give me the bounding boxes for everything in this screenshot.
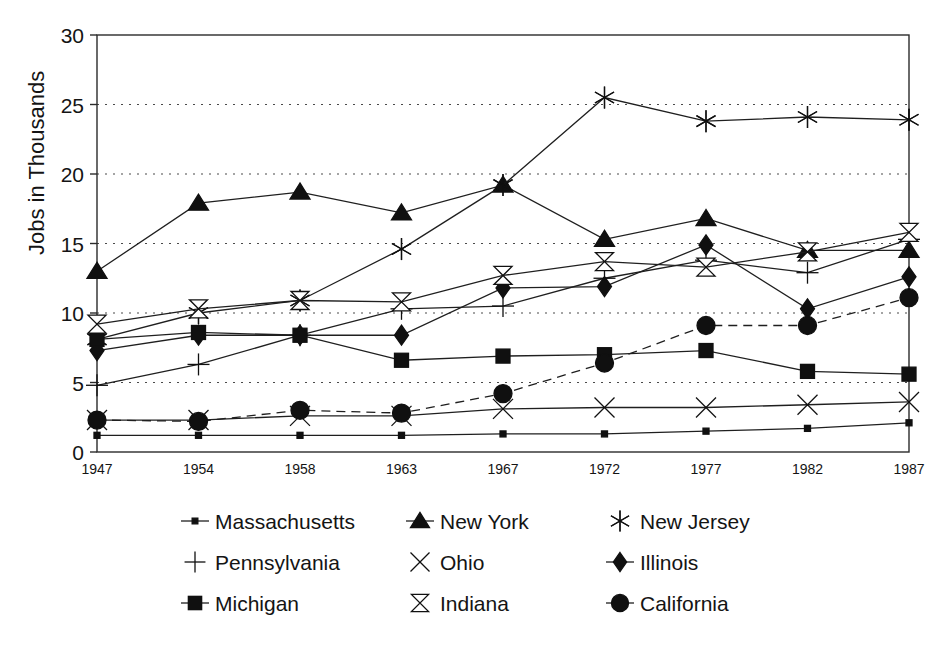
y-tick-label: 20 xyxy=(61,163,84,186)
marker-small-filled-square xyxy=(196,432,202,438)
marker-small-filled-square xyxy=(906,420,912,426)
y-tick-label: 15 xyxy=(61,233,84,256)
line-chart-figure: Jobs in Thousands 051015202530 194719541… xyxy=(0,0,928,654)
marker-filled-circle xyxy=(611,594,628,611)
legend-item-illinois[interactable]: Illinois xyxy=(606,551,698,574)
chart-legend: MassachusettsNew YorkNew JerseyPennsylva… xyxy=(181,510,750,615)
marker-filled-square xyxy=(395,353,409,367)
y-tick-label: 25 xyxy=(61,94,84,117)
y-tick-label: 5 xyxy=(72,372,84,395)
marker-filled-circle xyxy=(190,412,208,430)
legend-item-label: New York xyxy=(440,510,529,533)
marker-small-filled-square xyxy=(94,432,100,438)
x-tick-label-1958: 1958 xyxy=(284,461,315,477)
marker-filled-circle xyxy=(799,317,817,335)
x-tick-label-1977: 1977 xyxy=(690,461,721,477)
x-tick-label-1972: 1972 xyxy=(589,461,620,477)
legend-item-label: California xyxy=(640,592,729,615)
legend-item-label: Indiana xyxy=(440,592,509,615)
marker-filled-square xyxy=(90,332,104,346)
marker-filled-square xyxy=(188,596,201,609)
marker-small-filled-square xyxy=(399,432,405,438)
marker-filled-circle xyxy=(393,404,411,422)
y-axis-title: Jobs in Thousands xyxy=(24,71,49,255)
marker-small-filled-square xyxy=(500,431,506,437)
marker-small-filled-square xyxy=(703,428,709,434)
marker-small-filled-square xyxy=(192,518,198,524)
marker-filled-circle xyxy=(494,385,512,403)
x-tick-label-1947: 1947 xyxy=(81,461,112,477)
legend-item-label: Pennsylvania xyxy=(215,551,340,574)
x-tick-label-1987: 1987 xyxy=(893,461,924,477)
legend-item-label: New Jersey xyxy=(640,510,750,533)
x-tick-label-1963: 1963 xyxy=(386,461,417,477)
marker-filled-square xyxy=(699,344,713,358)
legend-item-label: Michigan xyxy=(215,592,299,615)
marker-filled-square xyxy=(192,325,206,339)
y-tick-label: 10 xyxy=(61,302,84,325)
marker-filled-circle xyxy=(900,289,918,307)
marker-filled-circle xyxy=(88,411,106,429)
legend-item-label: Massachusetts xyxy=(215,510,355,533)
x-tick-label-1982: 1982 xyxy=(792,461,823,477)
marker-filled-circle xyxy=(596,354,614,372)
marker-filled-square xyxy=(801,364,815,378)
marker-filled-circle xyxy=(697,317,715,335)
x-tick-label-1967: 1967 xyxy=(487,461,518,477)
marker-filled-square xyxy=(902,367,916,381)
marker-small-filled-square xyxy=(297,432,303,438)
x-axis-ticks: 194719541958196319671972197719821987 xyxy=(81,461,924,477)
legend-item-label: Ohio xyxy=(440,551,484,574)
legend-item-label: Illinois xyxy=(640,551,698,574)
marker-small-filled-square xyxy=(602,431,608,437)
marker-filled-circle xyxy=(291,401,309,419)
marker-small-filled-square xyxy=(805,425,811,431)
marker-filled-square xyxy=(293,328,307,342)
y-tick-label: 30 xyxy=(61,24,84,47)
x-tick-label-1954: 1954 xyxy=(183,461,214,477)
chart-canvas: Jobs in Thousands 051015202530 194719541… xyxy=(0,0,928,654)
marker-filled-square xyxy=(496,349,510,363)
y-axis-title-text: Jobs in Thousands xyxy=(24,71,49,255)
